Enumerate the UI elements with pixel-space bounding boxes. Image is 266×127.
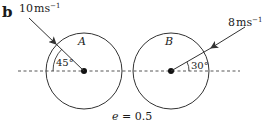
ball-a-speed-label: 10ms−1 [19,2,60,15]
ball-a-speed-exp: −1 [50,2,60,10]
ball-b-speed-exp: −1 [252,16,262,24]
ball-b-label: B [164,35,173,48]
collision-diagram: b A 45° 10ms−1 B 30° 8ms−1 e = 0.5 [0,0,266,127]
ball-a-velocity-arrow [29,18,56,44]
ball-b-speed-label: 8ms−1 [228,16,262,29]
part-label: b [2,3,13,21]
ball-a-speed-unit: ms [34,2,50,15]
ball-b-speed-unit: ms [236,16,252,29]
ball-a: A 45° 10ms−1 [19,2,122,109]
ball-a-angle: 45° [56,57,74,68]
ball-b-speed-value: 8 [228,16,235,29]
restitution-equals: = [119,110,135,123]
restitution-value: 0.5 [135,110,153,123]
ball-a-label: A [77,35,86,48]
ball-b: B 30° 8ms−1 [133,16,262,109]
restitution-label: e = 0.5 [112,110,152,123]
ball-b-angle-arc [187,62,189,71]
ball-b-angle: 30° [191,60,209,71]
ball-b-velocity-arrow [211,27,245,48]
ball-a-speed-value: 10 [19,2,33,15]
